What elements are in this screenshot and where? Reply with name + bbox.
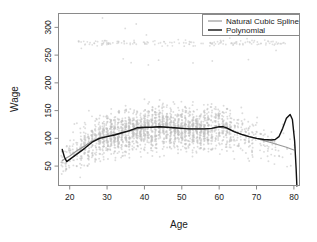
scatter-point	[233, 119, 235, 121]
scatter-point-high-wage	[121, 42, 123, 44]
scatter-point	[236, 119, 238, 121]
scatter-point	[99, 125, 101, 127]
scatter-point	[189, 107, 191, 109]
scatter-point	[120, 122, 122, 124]
scatter-point	[162, 104, 164, 106]
scatter-point-high-wage	[123, 43, 125, 45]
scatter-point	[83, 165, 85, 167]
scatter-point-high-wage	[194, 45, 196, 47]
scatter-point-outlier	[147, 64, 149, 66]
scatter-point	[151, 117, 153, 119]
scatter-point-high-wage	[106, 44, 108, 46]
scatter-point	[203, 138, 205, 140]
scatter-point-high-wage	[173, 41, 175, 43]
scatter-point-high-wage	[236, 43, 238, 45]
scatter-point	[182, 135, 184, 137]
scatter-point-high-wage	[80, 41, 82, 43]
scatter-point	[219, 124, 221, 126]
scatter-point-high-wage	[109, 42, 111, 44]
scatter-point	[147, 152, 149, 154]
scatter-point	[159, 99, 161, 101]
scatter-point	[282, 156, 284, 158]
scatter-point	[221, 130, 223, 132]
x-axis-tick-labels: 20304050607080	[65, 192, 299, 202]
scatter-point	[187, 112, 189, 114]
scatter-point	[245, 137, 247, 139]
scatter-point	[109, 146, 111, 148]
scatter-point-high-wage	[275, 41, 277, 43]
scatter-point	[107, 145, 109, 147]
scatter-point-high-wage	[189, 43, 191, 45]
scatter-point	[208, 118, 210, 120]
scatter-point	[206, 120, 208, 122]
scatter-point	[244, 142, 246, 144]
scatter-point	[128, 153, 130, 155]
scatter-point	[217, 121, 219, 123]
scatter-point	[159, 137, 161, 139]
scatter-point-outlier	[275, 50, 277, 52]
scatter-point	[76, 142, 78, 144]
scatter-point	[174, 130, 176, 132]
scatter-point	[230, 126, 232, 128]
scatter-point	[113, 119, 115, 121]
scatter-point	[234, 127, 236, 129]
scatter-point	[135, 120, 137, 122]
scatter-point	[177, 149, 179, 151]
scatter-point-high-wage	[123, 41, 125, 43]
scatter-point	[158, 130, 160, 132]
scatter-point	[76, 122, 78, 124]
scatter-point-high-wage	[132, 43, 134, 45]
scatter-point	[169, 112, 171, 114]
scatter-point	[66, 146, 68, 148]
scatter-point	[113, 132, 115, 134]
scatter-point	[241, 120, 243, 122]
scatter-point	[151, 155, 153, 157]
scatter-point	[238, 144, 240, 146]
scatter-point	[137, 123, 139, 125]
scatter-point	[203, 148, 205, 150]
scatter-point	[192, 114, 194, 116]
scatter-point	[129, 120, 131, 122]
scatter-point	[182, 145, 184, 147]
y-axis-tick-labels: 50100150200250300	[43, 20, 53, 171]
scatter-point-high-wage	[185, 39, 187, 41]
scatter-point	[102, 146, 104, 148]
scatter-point	[177, 146, 179, 148]
scatter-point	[151, 130, 153, 132]
scatter-point	[180, 101, 182, 103]
scatter-point	[159, 128, 161, 130]
scatter-point	[197, 124, 199, 126]
scatter-point	[226, 142, 228, 144]
scatter-point	[221, 118, 223, 120]
scatter-point	[161, 106, 163, 108]
scatter-point	[125, 139, 127, 141]
scatter-point	[268, 146, 270, 148]
scatter-point	[103, 127, 105, 129]
scatter-point	[211, 149, 213, 151]
scatter-point-high-wage	[101, 44, 103, 46]
scatter-point-high-wage	[225, 44, 227, 46]
scatter-point	[129, 123, 131, 125]
scatter-point	[124, 117, 126, 119]
scatter-point	[215, 135, 217, 137]
scatter-point	[98, 141, 100, 143]
scatter-point	[94, 120, 96, 122]
scatter-point	[267, 136, 269, 138]
scatter-point	[187, 140, 189, 142]
scatter-point	[232, 150, 234, 152]
scatter-point	[110, 123, 112, 125]
scatter-point	[174, 103, 176, 105]
scatter-point	[244, 130, 246, 132]
scatter-point	[124, 145, 126, 147]
scatter-point	[260, 133, 262, 135]
scatter-point	[103, 125, 105, 127]
scatter-point	[109, 149, 111, 151]
scatter-point-high-wage	[154, 40, 156, 42]
scatter-point	[181, 133, 183, 135]
scatter-point-high-wage	[101, 40, 103, 42]
scatter-point	[96, 149, 98, 151]
scatter-point	[69, 139, 71, 141]
scatter-point	[81, 164, 83, 166]
scatter-point	[193, 147, 195, 149]
x-tick-label-30: 30	[102, 192, 112, 202]
